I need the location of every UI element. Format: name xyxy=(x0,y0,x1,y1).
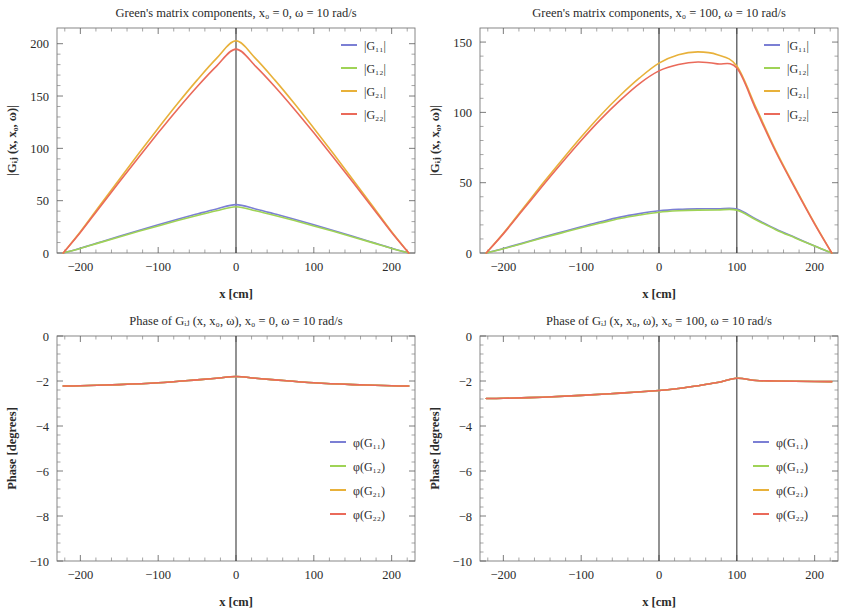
plot-title: Phase of Gᵢⱼ (x, x₀, ω), x₀ = 100, ω = 1… xyxy=(546,314,772,328)
y-tick-label: −6 xyxy=(36,465,49,479)
plot-title: Green's matrix components, x₀ = 0, ω = 1… xyxy=(115,6,356,20)
legend-label-G11: |G₁₁| xyxy=(787,39,809,53)
legend-label-G21: φ(G₂₁) xyxy=(776,484,808,498)
legend-label-G11: |G₁₁| xyxy=(364,39,386,53)
x-tick-label: 0 xyxy=(233,568,239,582)
y-tick-label: 200 xyxy=(30,37,49,51)
x-axis-label: x [cm] xyxy=(642,595,676,609)
y-axis-label: |Gᵢⱼ (x, x₀, ω)| xyxy=(428,105,442,176)
y-tick-label: 50 xyxy=(37,194,50,208)
x-tick-label: 100 xyxy=(304,260,323,274)
legend-label-G11: φ(G₁₁) xyxy=(353,436,385,450)
legend-label-G22: φ(G₂₂) xyxy=(776,508,808,522)
legend: φ(G₁₁)φ(G₁₂)φ(G₂₁)φ(G₂₂) xyxy=(753,436,808,522)
y-tick-label: 100 xyxy=(30,142,49,156)
x-tick-label: −200 xyxy=(490,260,516,274)
y-tick-label: −4 xyxy=(459,420,473,434)
y-axis-label: Phase [degrees] xyxy=(5,407,19,490)
legend-label-G21: |G₂₁| xyxy=(364,85,386,99)
figure-grid: Green's matrix components, x₀ = 0, ω = 1… xyxy=(0,0,846,616)
y-tick-label: 0 xyxy=(43,247,49,261)
y-tick-label: 0 xyxy=(466,330,472,344)
x-tick-label: −100 xyxy=(568,568,594,582)
legend-label-G22: |G₂₂| xyxy=(787,108,809,122)
x-tick-label: −200 xyxy=(490,568,516,582)
y-tick-label: 150 xyxy=(30,90,49,104)
y-tick-label: 150 xyxy=(453,36,472,50)
y-tick-label: −10 xyxy=(452,555,472,569)
y-axis: 050100150200 xyxy=(30,37,415,260)
plot-panel-phase-x0-100: Phase of Gᵢⱼ (x, x₀, ω), x₀ = 100, ω = 1… xyxy=(423,308,846,616)
legend-label-G12: φ(G₁₂) xyxy=(353,460,385,474)
x-tick-label: 200 xyxy=(805,260,824,274)
x-axis-label: x [cm] xyxy=(642,287,676,301)
y-axis: 050100150 xyxy=(453,36,838,261)
x-tick-label: 0 xyxy=(233,260,239,274)
x-tick-label: −100 xyxy=(145,260,171,274)
y-tick-label: −2 xyxy=(36,375,49,389)
x-axis-label: x [cm] xyxy=(219,595,253,609)
y-tick-label: −10 xyxy=(29,555,49,569)
y-tick-label: −8 xyxy=(459,510,472,524)
y-axis-label: Phase [degrees] xyxy=(428,407,442,490)
y-tick-label: 0 xyxy=(43,330,49,344)
y-tick-label: −8 xyxy=(36,510,49,524)
plot-title: Green's matrix components, x₀ = 100, ω =… xyxy=(532,6,786,20)
x-tick-label: 200 xyxy=(805,568,824,582)
x-tick-label: 100 xyxy=(727,568,746,582)
legend-label-G12: φ(G₁₂) xyxy=(776,460,808,474)
y-tick-label: −2 xyxy=(459,375,472,389)
legend-label-G22: φ(G₂₂) xyxy=(353,508,385,522)
plot-panel-magnitude-x0-100: Green's matrix components, x₀ = 100, ω =… xyxy=(423,0,846,308)
plot-panel-phase-x0-0: Phase of Gᵢⱼ (x, x₀, ω), x₀ = 0, ω = 10 … xyxy=(0,308,423,616)
legend: |G₁₁||G₁₂||G₂₁||G₂₂| xyxy=(764,39,809,122)
x-tick-label: −100 xyxy=(145,568,171,582)
y-tick-label: 0 xyxy=(466,247,472,261)
x-tick-label: −100 xyxy=(568,260,594,274)
y-tick-label: −6 xyxy=(459,465,472,479)
legend-label-G12: |G₁₂| xyxy=(787,62,809,76)
x-tick-label: 0 xyxy=(656,260,662,274)
x-tick-label: 100 xyxy=(727,260,746,274)
legend-label-G21: |G₂₁| xyxy=(787,85,809,99)
legend-label-G22: |G₂₂| xyxy=(364,108,386,122)
x-tick-label: −200 xyxy=(67,568,93,582)
y-tick-label: 100 xyxy=(453,106,472,120)
y-axis-label: |Gᵢⱼ (x, x₀, ω)| xyxy=(5,105,19,176)
x-axis-label: x [cm] xyxy=(219,287,253,301)
legend-label-G21: φ(G₂₁) xyxy=(353,484,385,498)
x-tick-label: 200 xyxy=(382,568,401,582)
legend: |G₁₁||G₁₂||G₂₁||G₂₂| xyxy=(341,39,386,122)
y-tick-label: 50 xyxy=(460,176,473,190)
x-tick-label: 200 xyxy=(382,260,401,274)
legend-label-G12: |G₁₂| xyxy=(364,62,386,76)
x-tick-label: 0 xyxy=(656,568,662,582)
legend-label-G11: φ(G₁₁) xyxy=(776,436,808,450)
x-tick-label: 100 xyxy=(304,568,323,582)
legend: φ(G₁₁)φ(G₁₂)φ(G₂₁)φ(G₂₂) xyxy=(330,436,385,522)
x-tick-label: −200 xyxy=(67,260,93,274)
plot-title: Phase of Gᵢⱼ (x, x₀, ω), x₀ = 0, ω = 10 … xyxy=(129,314,342,328)
y-tick-label: −4 xyxy=(36,420,50,434)
plot-panel-magnitude-x0-0: Green's matrix components, x₀ = 0, ω = 1… xyxy=(0,0,423,308)
